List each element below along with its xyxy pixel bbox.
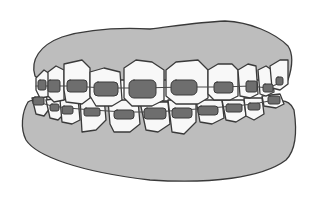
bracket [198, 106, 218, 115]
bracket [48, 80, 60, 92]
bracket [84, 108, 100, 116]
bracket [263, 84, 273, 92]
bracket [144, 108, 166, 119]
bracket [214, 82, 233, 93]
teeth-with-braces-drawing [0, 0, 313, 199]
bracket [246, 81, 257, 92]
bracket [50, 104, 59, 111]
bracket [33, 97, 44, 105]
bracket [248, 103, 260, 110]
bracket [94, 82, 118, 96]
bracket [276, 77, 283, 85]
bracket [114, 110, 134, 119]
bracket [268, 96, 280, 104]
bracket [226, 104, 242, 112]
bracket [38, 80, 46, 90]
bracket [62, 106, 73, 114]
bracket [171, 80, 197, 95]
bracket [172, 108, 192, 118]
bracket [129, 80, 156, 98]
braces-illustration: Line illustration of a set of teeth with… [0, 0, 313, 199]
bracket [67, 80, 87, 92]
